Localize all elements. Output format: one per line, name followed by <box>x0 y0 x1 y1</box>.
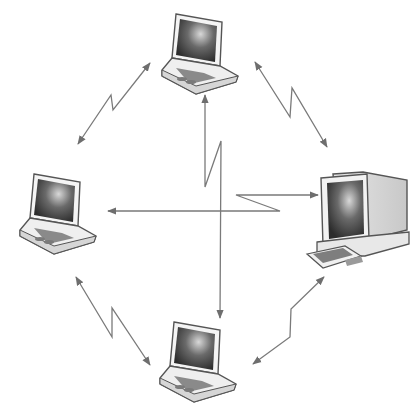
laptop-top <box>162 14 238 94</box>
laptop-icon <box>162 14 238 94</box>
link-top-left <box>78 63 150 144</box>
link-left-bottom <box>76 277 150 365</box>
laptop-icon <box>20 174 96 254</box>
link-top-right <box>255 62 327 147</box>
laptop-left <box>20 174 96 254</box>
laptop-bottom <box>160 322 236 402</box>
link-left-right <box>108 195 318 211</box>
network-diagram <box>0 0 413 419</box>
link-right-bottom <box>253 277 324 364</box>
desktop-computer-icon <box>307 172 409 268</box>
desktop-right <box>307 172 409 268</box>
wireless-links <box>76 62 327 365</box>
laptop-icon <box>160 322 236 402</box>
link-top-bottom <box>205 95 221 318</box>
